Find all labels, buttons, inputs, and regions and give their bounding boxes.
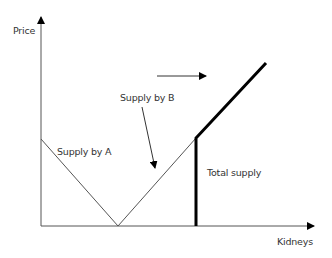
supply-b-arrow-down <box>142 107 155 168</box>
supply-a-label: Supply by A <box>57 146 111 157</box>
y-axis-label: Price <box>13 25 35 36</box>
x-axis-label: Kidneys <box>277 236 313 247</box>
supply-b-line <box>118 138 196 226</box>
total-supply-line <box>196 63 266 226</box>
supply-diagram <box>0 0 332 258</box>
total-supply-label: Total supply <box>207 167 261 178</box>
supply-b-label: Supply by B <box>120 92 174 103</box>
